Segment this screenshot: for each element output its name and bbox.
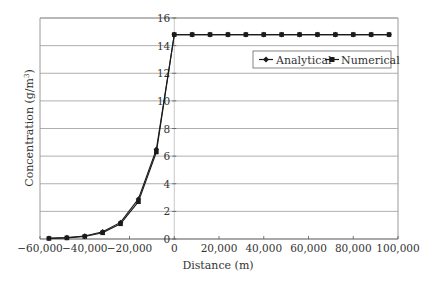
square-marker-icon (244, 32, 249, 37)
x-tick-label: −40,000 (62, 242, 108, 254)
square-marker-icon (47, 236, 52, 241)
square-marker-icon (333, 32, 338, 37)
y-tick-label: 16 (157, 12, 171, 24)
square-marker-icon (208, 32, 213, 37)
x-tick-label: 80,000 (335, 242, 372, 254)
y-axis-title: Concentration (g/m3) (23, 69, 36, 187)
x-axis-title: Distance (m) (182, 259, 253, 272)
square-marker-icon (351, 32, 356, 37)
square-marker-icon (172, 32, 177, 37)
square-marker-icon (330, 57, 335, 62)
y-tick-label: 0 (164, 233, 171, 245)
square-marker-icon (387, 32, 392, 37)
x-tick-label: 20,000 (201, 242, 238, 254)
y-tick-label: 4 (164, 178, 171, 190)
square-marker-icon (279, 32, 284, 37)
square-marker-icon (297, 32, 302, 37)
square-marker-icon (369, 32, 374, 37)
y-tick-label: 8 (164, 123, 171, 135)
square-marker-icon (315, 32, 320, 37)
legend: Analytical Numerical (253, 51, 400, 68)
x-tick-label: 60,000 (290, 242, 327, 254)
y-tick-label: 14 (157, 40, 171, 52)
y-tick-label: 6 (164, 150, 171, 162)
square-marker-icon (118, 222, 123, 227)
square-marker-icon (154, 150, 159, 155)
y-tick-label: 2 (164, 205, 171, 217)
square-marker-icon (100, 230, 105, 235)
square-marker-icon (136, 199, 141, 204)
y-axis-title-main: Concentration (g/m (23, 77, 36, 186)
gridlines (40, 18, 398, 211)
x-tick-label: 100,000 (376, 242, 419, 254)
square-marker-icon (65, 236, 70, 241)
x-tick-label: −60,000 (17, 242, 63, 254)
square-marker-icon (261, 32, 266, 37)
legend-label-analytical: Analytical (275, 54, 332, 67)
legend-label-numerical: Numerical (341, 54, 400, 67)
square-marker-icon (82, 234, 87, 239)
square-marker-icon (226, 32, 231, 37)
x-tick-label: 40,000 (245, 242, 282, 254)
chart: 0246810121416 −60,000−40,000−20,000020,0… (0, 0, 434, 283)
x-tick-label: 0 (171, 242, 178, 254)
x-tick-label: −20,000 (107, 242, 153, 254)
square-marker-icon (190, 32, 195, 37)
y-axis-title-tail: ) (23, 69, 36, 73)
